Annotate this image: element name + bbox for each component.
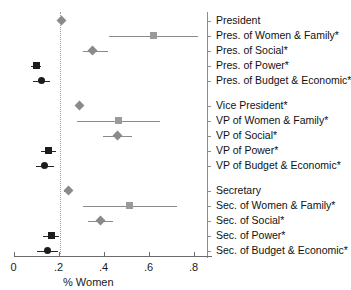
category-tick [207, 121, 211, 122]
chart-row: Sec. of Power* [0, 229, 351, 244]
category-tick [207, 206, 211, 207]
x-axis-tick [14, 252, 15, 256]
category-tick [207, 51, 211, 52]
category-label: VP of Power* [216, 145, 278, 156]
chart-row: Pres. of Social* [0, 44, 351, 59]
category-label: Sec. of Budget & Economic* [216, 245, 348, 256]
category-label: Pres. of Social* [216, 45, 288, 56]
category-label: Sec. of Women & Family* [216, 200, 335, 211]
chart-row: VP of Women & Family* [0, 114, 351, 129]
category-tick [207, 36, 211, 37]
category-label: President [216, 15, 260, 26]
category-tick [207, 251, 211, 252]
data-point-marker [87, 46, 97, 56]
category-tick [207, 236, 211, 237]
forest-plot-chart: PresidentPres. of Women & Family*Pres. o… [0, 0, 351, 290]
chart-row: President [0, 14, 351, 29]
category-label: Sec. of Power* [216, 230, 285, 241]
data-point-marker [48, 232, 55, 239]
x-axis-tick-label: .4 [92, 261, 116, 273]
category-tick [207, 151, 211, 152]
category-label: Pres. of Power* [216, 60, 289, 71]
chart-row: Pres. of Budget & Economic* [0, 74, 351, 89]
category-tick [207, 136, 211, 137]
data-point-marker [74, 101, 84, 111]
category-label: VP of Social* [216, 130, 277, 141]
category-label: VP of Women & Family* [216, 115, 328, 126]
chart-row: Pres. of Power* [0, 59, 351, 74]
x-axis-tick [149, 252, 150, 256]
category-label: Vice President* [216, 100, 288, 111]
x-axis-tick-label: .8 [182, 261, 206, 273]
category-tick [207, 21, 211, 22]
chart-row: Secretary [0, 184, 351, 199]
x-axis-tick-label: .6 [137, 261, 161, 273]
data-point-marker [38, 77, 45, 84]
category-label: Sec. of Social* [216, 215, 284, 226]
data-point-marker [57, 16, 67, 26]
category-tick [207, 81, 211, 82]
data-point-marker [33, 62, 40, 69]
data-point-marker [113, 131, 123, 141]
data-point-marker [63, 186, 73, 196]
data-point-marker [126, 202, 133, 209]
category-tick [207, 106, 211, 107]
category-label: Secretary [216, 185, 261, 196]
category-label: VP of Budget & Economic* [216, 160, 341, 171]
x-axis-line [14, 256, 212, 257]
chart-row: VP of Power* [0, 144, 351, 159]
data-point-marker [41, 162, 48, 169]
category-tick [207, 66, 211, 67]
x-axis-tick [59, 252, 60, 256]
category-tick [207, 221, 211, 222]
chart-row: Vice President* [0, 99, 351, 114]
x-axis-tick [104, 252, 105, 256]
data-point-marker [150, 32, 157, 39]
data-point-marker [115, 117, 122, 124]
x-axis-tick-label: 0 [2, 261, 26, 273]
x-axis-tick-label: .2 [47, 261, 71, 273]
data-point-marker [44, 247, 51, 254]
chart-row: Pres. of Women & Family* [0, 29, 351, 44]
category-tick [207, 166, 211, 167]
x-axis-title: % Women [63, 276, 114, 288]
chart-row: VP of Budget & Economic* [0, 159, 351, 174]
chart-row: Sec. of Women & Family* [0, 199, 351, 214]
data-point-marker [95, 216, 105, 226]
category-tick [207, 191, 211, 192]
data-point-marker [45, 147, 52, 154]
chart-row: Sec. of Social* [0, 214, 351, 229]
chart-row: VP of Social* [0, 129, 351, 144]
category-label: Pres. of Women & Family* [216, 30, 339, 41]
category-label: Pres. of Budget & Economic* [216, 75, 351, 86]
plot-area: PresidentPres. of Women & Family*Pres. o… [0, 0, 351, 290]
x-axis-tick [194, 252, 195, 256]
